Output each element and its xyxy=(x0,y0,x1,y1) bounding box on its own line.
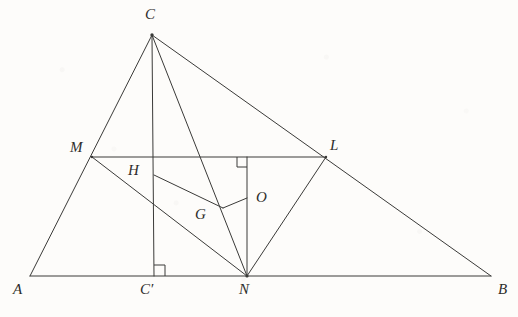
segment-CB xyxy=(152,35,491,276)
point-label-H: H xyxy=(128,163,139,178)
vertex-dot-L xyxy=(325,156,327,158)
segment-AC xyxy=(30,35,152,276)
right-angle-icon-at-C-prime xyxy=(154,265,165,276)
geometry-canvas xyxy=(0,0,518,317)
vertex-dot-N xyxy=(245,274,248,277)
segment-GO xyxy=(223,198,247,208)
point-label-C: C xyxy=(145,7,155,22)
segment-LN xyxy=(247,157,326,276)
segments-group xyxy=(30,35,491,276)
segment-CC-prime xyxy=(152,35,154,276)
point-label-C-prime: C′ xyxy=(140,282,153,297)
right-angle-icon-at-ML-foot xyxy=(237,157,247,167)
vertex-dots-group xyxy=(91,33,327,277)
point-label-N: N xyxy=(239,282,249,297)
geometry-figure: A B C C′ M N L H G O xyxy=(0,0,518,317)
point-label-L: L xyxy=(330,138,338,153)
point-label-A: A xyxy=(13,282,22,297)
vertex-dot-M xyxy=(91,156,93,158)
point-label-M: M xyxy=(70,140,83,155)
point-label-G: G xyxy=(195,207,206,222)
point-label-O: O xyxy=(256,190,267,205)
point-label-B: B xyxy=(498,282,507,297)
segment-HG xyxy=(154,175,223,208)
vertex-dot-C xyxy=(150,33,153,36)
